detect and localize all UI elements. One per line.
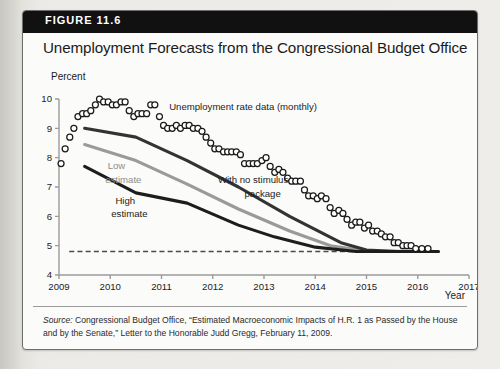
y-axis-tick-label: 4: [47, 269, 53, 280]
source-prefix: Source:: [43, 315, 73, 325]
annotation-high-estimate-line1: High: [115, 195, 135, 206]
scatter-point: [67, 134, 73, 140]
annotation-no-stimulus-line1: With no stimulus: [218, 174, 289, 185]
scatter-point: [327, 205, 333, 211]
y-axis-tick-label: 8: [47, 152, 52, 163]
scatter-point: [71, 125, 77, 131]
scatter-point: [208, 140, 214, 146]
annotation-high-estimate-line2: estimate: [111, 208, 147, 219]
x-axis-tick-label: 2013: [253, 281, 274, 292]
chart-plot-area: 4567891020092010201120122013201420152016…: [23, 63, 478, 301]
y-axis-tick-label: 7: [47, 181, 52, 192]
annotation-low-estimate-line2: estimate: [105, 174, 141, 185]
scatter-point: [203, 134, 209, 140]
figure-number-label: FIGURE 11.6: [45, 14, 121, 26]
scatter-point: [387, 234, 393, 240]
scatter-point: [92, 102, 98, 108]
annotation-no-stimulus-line2: package: [245, 188, 281, 199]
x-axis-tick-label: 2009: [48, 281, 69, 292]
annotation-scatter-label: Unemployment rate data (monthly): [169, 101, 317, 112]
scatter-point: [199, 128, 205, 134]
source-divider: [33, 306, 467, 307]
x-axis-tick-label: 2010: [100, 281, 121, 292]
source-note: Source: Congressional Budget Office, “Es…: [43, 314, 461, 339]
scatter-point: [301, 187, 307, 193]
source-text: Congressional Budget Office, “Estimated …: [43, 315, 457, 337]
scatter-point: [126, 108, 132, 114]
x-axis-tick-label: 2011: [151, 281, 172, 292]
scatter-point: [88, 108, 94, 114]
scatter-point: [357, 219, 363, 225]
scatter-point: [344, 216, 350, 222]
scatter-point: [62, 146, 68, 152]
x-axis-tick-label: 2012: [202, 281, 223, 292]
page-background: FIGURE 11.6 Unemployment Forecasts from …: [0, 0, 500, 369]
figure-banner: FIGURE 11.6: [23, 11, 477, 33]
scatter-point: [425, 246, 431, 252]
scatter-point: [156, 114, 162, 120]
scatter-point: [152, 102, 158, 108]
x-axis-tick-label: 2014: [305, 281, 327, 292]
x-axis-name-label: Year: [445, 290, 465, 301]
scatter-point: [237, 152, 243, 158]
scatter-point: [419, 246, 425, 252]
scatter-point: [297, 178, 303, 184]
y-axis-tick-label: 5: [47, 240, 52, 251]
scatter-point: [366, 222, 372, 228]
scatter-point: [144, 111, 150, 117]
scatter-point: [340, 210, 346, 216]
scatter-point: [323, 196, 329, 202]
y-axis-tick-label: 9: [47, 123, 52, 134]
scatter-point: [263, 155, 269, 161]
chart-title: Unemployment Forecasts from the Congress…: [43, 39, 467, 56]
x-axis-tick-label: 2015: [356, 281, 377, 292]
y-axis-tick-label: 6: [47, 211, 52, 222]
y-axis-tick-label: 10: [41, 93, 52, 104]
scatter-point: [413, 246, 419, 252]
figure-card: FIGURE 11.6 Unemployment Forecasts from …: [22, 10, 478, 350]
x-axis-tick-label: 2016: [407, 281, 428, 292]
scatter-point: [58, 161, 64, 167]
scatter-point: [122, 99, 128, 105]
scatter-point: [267, 163, 273, 169]
unemployment-forecast-chart: 4567891020092010201120122013201420152016…: [23, 63, 478, 301]
annotation-low-estimate-line1: Low: [108, 160, 126, 171]
